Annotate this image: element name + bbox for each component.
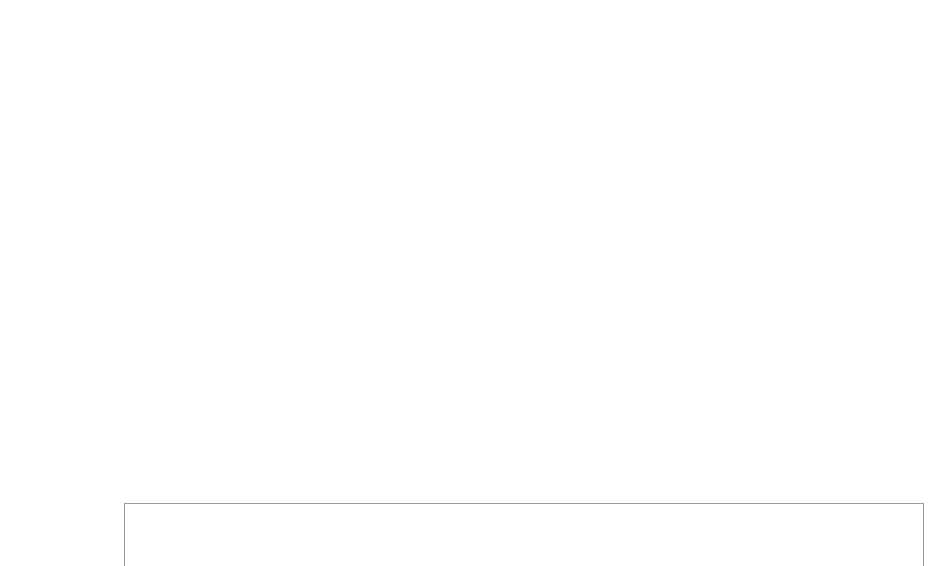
chart-figure xyxy=(0,0,951,566)
chart-legend xyxy=(124,503,924,566)
